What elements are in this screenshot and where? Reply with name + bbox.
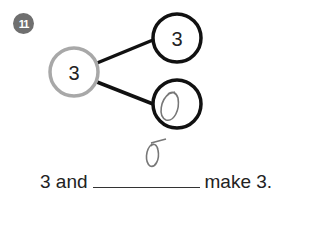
sentence-after: make 3. — [205, 171, 273, 192]
connector-bottom — [97, 82, 153, 104]
part-bottom-circle[interactable] — [153, 80, 201, 128]
handwritten-answer-zero — [146, 139, 166, 166]
whole-value: 3 — [68, 62, 79, 84]
sentence-before: 3 and — [40, 171, 88, 192]
fill-in-sentence: 3 andmake 3. — [40, 171, 272, 193]
part-top-value: 3 — [171, 28, 182, 50]
answer-blank[interactable] — [93, 173, 200, 188]
connector-top — [97, 40, 153, 63]
